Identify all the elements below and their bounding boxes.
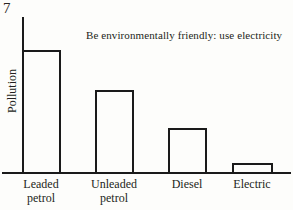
bar-unleaded-petrol xyxy=(95,90,134,174)
chart-annotation-caption: Be environmentally friendly: use electri… xyxy=(86,29,282,42)
x-tick-label-line1: Diesel xyxy=(172,177,203,191)
x-tick-label-line1: Unleaded xyxy=(91,177,137,191)
x-tick-label-line2: petrol xyxy=(69,191,159,205)
figure-number: 7 xyxy=(3,1,11,16)
x-tick-label-line1: Leaded xyxy=(23,177,58,191)
bar-diesel xyxy=(168,128,207,174)
chart-figure: 7 Be environmentally friendly: use elect… xyxy=(0,0,293,210)
bar-leaded-petrol xyxy=(22,50,61,174)
x-tick-label-electric: Electric xyxy=(207,177,293,191)
bar-electric xyxy=(232,163,273,174)
y-axis-label: Pollution xyxy=(5,56,19,126)
x-tick-label-line1: Electric xyxy=(233,177,270,191)
